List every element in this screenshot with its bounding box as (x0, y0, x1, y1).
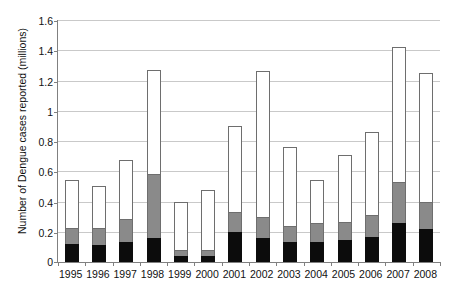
x-tick-label-2005: 2005 (330, 268, 357, 280)
bar-1999[interactable] (174, 202, 188, 262)
y-tick-label: 0 (47, 256, 53, 268)
x-tick-label-1996: 1996 (84, 268, 111, 280)
bar-segment-gray-2008 (419, 202, 433, 229)
bar-segment-gray-2005 (338, 222, 352, 240)
x-tick-mark (222, 262, 223, 266)
y-tick-label: 0.8 (38, 136, 53, 148)
bar-segment-black-1998 (147, 238, 161, 262)
x-tick-mark (249, 262, 250, 266)
bar-segment-black-1996 (92, 245, 106, 262)
x-tick-mark (58, 262, 59, 266)
x-tick-label-2002: 2002 (248, 268, 275, 280)
x-tick-mark (85, 262, 86, 266)
bar-segment-gray-2006 (365, 215, 379, 237)
x-tick-mark (276, 262, 277, 266)
bar-segment-black-2002 (256, 238, 270, 262)
y-axis-title: Number of Dengue cases reported (million… (16, 6, 28, 256)
bar-2004[interactable] (310, 180, 324, 262)
x-tick-mark (413, 262, 414, 266)
bar-segment-white-2007 (392, 47, 406, 182)
x-tick-label-2004: 2004 (303, 268, 330, 280)
bar-1995[interactable] (65, 180, 79, 262)
bar-segment-gray-1997 (119, 219, 133, 242)
bar-segment-black-2007 (392, 223, 406, 262)
bar-2001[interactable] (228, 126, 242, 262)
bar-segment-white-1997 (119, 160, 133, 219)
x-tick-label-2007: 2007 (384, 268, 411, 280)
x-tick-mark (331, 262, 332, 266)
bar-1997[interactable] (119, 160, 133, 262)
x-tick-label-1997: 1997 (112, 268, 139, 280)
bar-segment-white-1995 (65, 180, 79, 228)
bar-segment-black-1995 (65, 244, 79, 262)
plot-area: 00.20.40.60.811.21.41.6 (57, 20, 440, 263)
bar-segment-white-2001 (228, 126, 242, 212)
x-tick-label-2001: 2001 (221, 268, 248, 280)
x-tick-mark (358, 262, 359, 266)
bar-segment-white-2008 (419, 73, 433, 202)
bar-segment-white-1998 (147, 70, 161, 174)
bar-segment-white-2004 (310, 180, 324, 223)
dengue-stacked-bar-chart: Number of Dengue cases reported (million… (0, 0, 449, 301)
x-tick-mark (385, 262, 386, 266)
bar-segment-black-2005 (338, 240, 352, 262)
x-tick-mark (140, 262, 141, 266)
bar-segment-gray-1998 (147, 174, 161, 238)
bar-segment-gray-2007 (392, 182, 406, 223)
bars-layer (58, 20, 440, 262)
bar-segment-black-1997 (119, 242, 133, 262)
bar-segment-black-2000 (201, 256, 215, 262)
y-tick-label: 0.6 (38, 166, 53, 178)
bar-segment-black-2003 (283, 242, 297, 262)
bar-2002[interactable] (256, 71, 270, 262)
bar-segment-black-2004 (310, 242, 324, 262)
bar-2008[interactable] (419, 73, 433, 262)
bar-segment-white-2005 (338, 155, 352, 222)
y-tick-label: 1.2 (38, 76, 53, 88)
bar-2007[interactable] (392, 47, 406, 262)
x-tick-label-2008: 2008 (412, 268, 439, 280)
bar-segment-white-2002 (256, 71, 270, 216)
bar-1996[interactable] (92, 186, 106, 262)
bar-segment-gray-2003 (283, 226, 297, 242)
bar-segment-black-2006 (365, 237, 379, 262)
y-tick-label: 1.4 (38, 45, 53, 57)
bar-segment-white-1999 (174, 202, 188, 250)
bar-2006[interactable] (365, 132, 379, 262)
x-tick-label-2006: 2006 (357, 268, 384, 280)
bar-2005[interactable] (338, 155, 352, 262)
y-tick-label: 0.2 (38, 227, 53, 239)
x-tick-mark (194, 262, 195, 266)
bar-2000[interactable] (201, 190, 215, 262)
x-tick-mark (113, 262, 114, 266)
bar-segment-white-2006 (365, 132, 379, 215)
x-tick-label-2000: 2000 (193, 268, 220, 280)
x-tick-label-1998: 1998 (139, 268, 166, 280)
bar-segment-black-2008 (419, 229, 433, 262)
bar-segment-gray-1995 (65, 228, 79, 244)
bar-segment-white-2000 (201, 190, 215, 250)
bar-1998[interactable] (147, 70, 161, 262)
bar-segment-gray-2004 (310, 223, 324, 242)
bar-segment-gray-2001 (228, 212, 242, 232)
x-tick-mark (167, 262, 168, 266)
bar-segment-black-2001 (228, 232, 242, 262)
bar-segment-white-2003 (283, 147, 297, 226)
bar-segment-gray-2002 (256, 217, 270, 238)
bar-segment-white-1996 (92, 186, 106, 228)
bar-segment-black-1999 (174, 256, 188, 262)
bar-segment-gray-1996 (92, 228, 106, 245)
x-tick-label-2003: 2003 (275, 268, 302, 280)
x-tick-mark (440, 262, 441, 266)
bar-2003[interactable] (283, 147, 297, 262)
x-tick-label-1995: 1995 (57, 268, 84, 280)
y-tick-label: 1 (47, 106, 53, 118)
x-tick-mark (304, 262, 305, 266)
y-tick-label: 1.6 (38, 15, 53, 27)
y-tick-label: 0.4 (38, 197, 53, 209)
x-tick-label-1999: 1999 (166, 268, 193, 280)
